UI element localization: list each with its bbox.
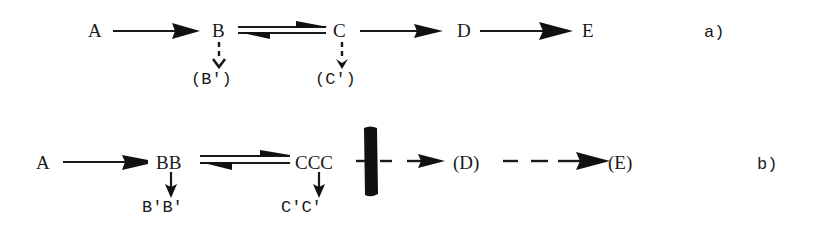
node-bb: BB (156, 152, 181, 173)
node-c-side-product: (C') (315, 70, 356, 89)
node-d: (D) (453, 152, 479, 174)
node-a: A (36, 152, 50, 173)
dashed-arrow-b-to-b-side (213, 42, 225, 67)
node-bb-side-product: B'B' (142, 198, 183, 217)
arrow-ccc-to-ccc-side (313, 172, 325, 198)
equilibrium-arrow-b-c (238, 21, 328, 39)
equilibrium-arrow-bb-ccc (200, 150, 290, 170)
arrow-bb-to-bb-side (165, 172, 177, 198)
node-b: B (212, 20, 225, 41)
node-a: A (88, 20, 102, 41)
node-ccc: CCC (295, 152, 333, 173)
node-ccc-side-product: C'C' (281, 198, 322, 217)
node-d: D (457, 20, 471, 41)
node-c: C (333, 20, 346, 41)
arrow-a-to-bb (63, 155, 148, 170)
scheme-b-label: b) (757, 155, 777, 174)
node-b-side-product: (B') (191, 70, 232, 89)
scheme-a-label: a) (704, 23, 724, 42)
dashed-arrow-d-to-e (503, 152, 610, 170)
arrow-a-to-b (113, 23, 200, 39)
node-e: E (582, 20, 594, 41)
arrow-c-to-d (360, 24, 443, 38)
scheme-a: A B C D E (B') (C') a) (88, 20, 724, 89)
node-e: (E) (608, 152, 632, 174)
block-bar (364, 127, 378, 197)
reaction-scheme-diagram: A B C D E (B') (C') a) (0, 0, 815, 231)
scheme-b: A BB CCC (D) (E) B'B' C'C' b) (36, 127, 777, 218)
arrow-d-to-e (480, 22, 573, 40)
dashed-arrow-c-to-c-side (336, 42, 348, 69)
blocking-bar-icon (364, 127, 378, 197)
